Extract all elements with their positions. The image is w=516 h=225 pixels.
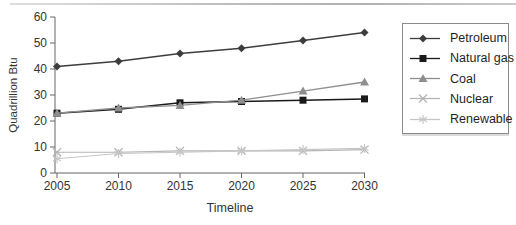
svg-text:60: 60 [34, 10, 48, 24]
legend: Petroleum Natural gas Coal Nuclear Renew… [402, 23, 509, 134]
legend-label: Renewable [450, 112, 513, 126]
svg-text:20: 20 [34, 114, 48, 128]
svg-text:2030: 2030 [351, 179, 378, 193]
line-chart: 0102030405060200520102015202020252030 [0, 0, 400, 225]
legend-item-coal: Coal [409, 72, 506, 86]
svg-text:40: 40 [34, 62, 48, 76]
legend-label: Natural gas [450, 51, 514, 65]
legend-item-renewable: Renewable [409, 112, 506, 126]
svg-text:2025: 2025 [290, 179, 317, 193]
svg-text:2005: 2005 [44, 179, 71, 193]
svg-text:10: 10 [34, 140, 48, 154]
petroleum-marker-icon [409, 32, 441, 45]
legend-item-petroleum: Petroleum [409, 31, 506, 45]
svg-text:2015: 2015 [167, 179, 194, 193]
nuclear-marker-icon [409, 92, 441, 105]
svg-text:2020: 2020 [228, 179, 255, 193]
svg-text:2010: 2010 [105, 179, 132, 193]
legend-label: Nuclear [450, 92, 493, 106]
legend-label: Petroleum [450, 31, 507, 45]
legend-label: Coal [450, 72, 476, 86]
legend-item-nuclear: Nuclear [409, 92, 506, 106]
svg-text:50: 50 [34, 36, 48, 50]
svg-text:0: 0 [40, 166, 47, 180]
coal-marker-icon [409, 72, 441, 85]
x-axis-title: Timeline [207, 201, 254, 215]
natural-gas-marker-icon [409, 52, 441, 65]
renewable-marker-icon [409, 113, 441, 126]
svg-text:30: 30 [34, 88, 48, 102]
legend-item-natural-gas: Natural gas [409, 51, 506, 65]
y-axis-title: Quadrillion Btu [7, 57, 19, 132]
